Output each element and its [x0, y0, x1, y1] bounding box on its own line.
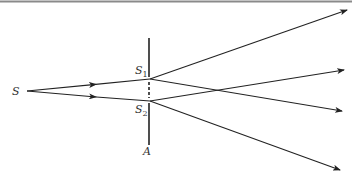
slit2-label-sub: 2 [143, 109, 148, 118]
slit1-label: S1 [135, 64, 148, 79]
slit2-label: S2 [135, 103, 148, 118]
outgoing-ray-s2-lower [150, 101, 340, 170]
incoming-ray-to-s1 [27, 79, 150, 91]
incoming-ray-to-s2 [27, 91, 150, 101]
diagram-canvas: S S1 S2 A [0, 0, 355, 180]
barrier-label: A [142, 145, 151, 158]
slit1-label-sub: 1 [143, 70, 148, 79]
source-label: S [12, 85, 20, 98]
outgoing-ray-s1-upper [150, 10, 347, 79]
outgoing-ray-s1-lower [150, 79, 342, 111]
double-slit-diagram: S S1 S2 A [0, 0, 355, 180]
outgoing-ray-s2-upper [150, 70, 344, 101]
